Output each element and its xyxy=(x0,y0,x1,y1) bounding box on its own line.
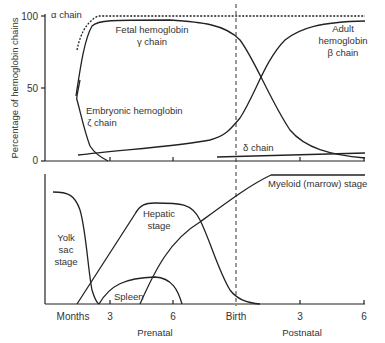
hemoglobin-label: hemoglobin xyxy=(318,35,367,46)
yolk-label-3: stage xyxy=(54,256,77,267)
y-tick-0: 0 xyxy=(32,155,38,166)
x-tick-birth: Birth xyxy=(226,311,247,322)
postnatal-label: Postnatal xyxy=(282,327,322,338)
embryonic-label: Embryonic hemoglobin xyxy=(86,105,183,116)
x-tick-3-postnatal: 3 xyxy=(297,311,303,322)
myeloid-label: Myeloid (marrow) stage xyxy=(268,178,367,189)
zeta-label: ζ chain xyxy=(87,117,117,128)
myeloid-curve xyxy=(140,175,365,304)
x-tick-3-prenatal: 3 xyxy=(107,311,113,322)
alpha-label: α chain xyxy=(51,9,82,20)
delta-label: δ chain xyxy=(243,142,274,153)
prenatal-label: Prenatal xyxy=(137,327,172,338)
x-tick-6-postnatal: 6 xyxy=(361,311,367,322)
bottom-panel: Yolk sac stage Hepatic stage Spleen Myel… xyxy=(45,174,367,338)
y-tick-50: 50 xyxy=(27,83,39,94)
y-axis-label: Percentage of hemoglobin chains xyxy=(9,17,20,158)
yolk-label-1: Yolk xyxy=(57,232,75,243)
spleen-label: Spleen xyxy=(114,291,144,302)
beta-label: β chain xyxy=(328,47,359,58)
hepatic-label-1: Hepatic xyxy=(143,208,175,219)
x-tick-months: Months xyxy=(57,311,90,322)
adult-label: Adult xyxy=(332,23,354,34)
gamma-label: γ chain xyxy=(137,36,167,47)
y-tick-100: 100 xyxy=(21,11,38,22)
hepatic-label-2: stage xyxy=(147,220,170,231)
hemoglobin-chart: Percentage of hemoglobin chains 100 50 0… xyxy=(0,0,385,343)
top-panel: Percentage of hemoglobin chains 100 50 0… xyxy=(9,9,368,166)
yolk-label-2: sac xyxy=(59,244,74,255)
fetal-label: Fetal hemoglobin xyxy=(116,24,189,35)
x-tick-6-prenatal: 6 xyxy=(170,311,176,322)
